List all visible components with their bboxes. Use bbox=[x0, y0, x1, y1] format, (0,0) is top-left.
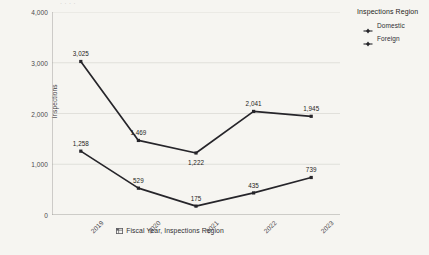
x-axis-title: Fiscal Year, Inspections Region bbox=[0, 227, 340, 235]
line-chart: · · · · Inspections 01,0002,0003,0004,00… bbox=[0, 0, 429, 255]
y-tick-label: 1,000 bbox=[31, 161, 48, 168]
data-point-label: 1,222 bbox=[188, 158, 204, 165]
diamond-marker-icon bbox=[363, 34, 373, 42]
legend-title: Inspections Region bbox=[357, 8, 427, 15]
data-point-label: 175 bbox=[191, 195, 202, 202]
legend-items: DomesticForeign bbox=[357, 21, 427, 42]
legend-label: Foreign bbox=[377, 35, 400, 42]
y-tick-label: 0 bbox=[44, 212, 48, 219]
legend: Inspections Region DomesticForeign bbox=[357, 8, 427, 47]
legend-label: Domestic bbox=[377, 22, 405, 29]
data-point-label: 1,945 bbox=[303, 105, 319, 112]
data-point-label: 739 bbox=[306, 166, 317, 173]
legend-item-domestic[interactable]: Domestic bbox=[363, 21, 427, 29]
y-tick-label: 4,000 bbox=[31, 9, 48, 16]
y-tick-label: 3,000 bbox=[31, 59, 48, 66]
data-point-label: 2,041 bbox=[246, 100, 262, 107]
data-point-label: 1,469 bbox=[130, 129, 146, 136]
data-point-label: 1,258 bbox=[73, 140, 89, 147]
data-point-label: 529 bbox=[133, 177, 144, 184]
plot-canvas bbox=[52, 12, 340, 215]
y-tick-label: 2,000 bbox=[31, 110, 48, 117]
data-point-label: 435 bbox=[248, 181, 259, 188]
clipped-title-remnant: · · · · bbox=[60, 0, 200, 4]
table-grid-icon bbox=[116, 228, 123, 235]
diamond-marker-icon bbox=[363, 21, 373, 29]
data-point-label: 3,025 bbox=[73, 50, 89, 57]
x-axis-title-text: Fiscal Year, Inspections Region bbox=[126, 227, 224, 234]
legend-item-foreign[interactable]: Foreign bbox=[363, 34, 427, 42]
plot-area: Inspections 01,0002,0003,0004,000 201920… bbox=[52, 12, 340, 215]
